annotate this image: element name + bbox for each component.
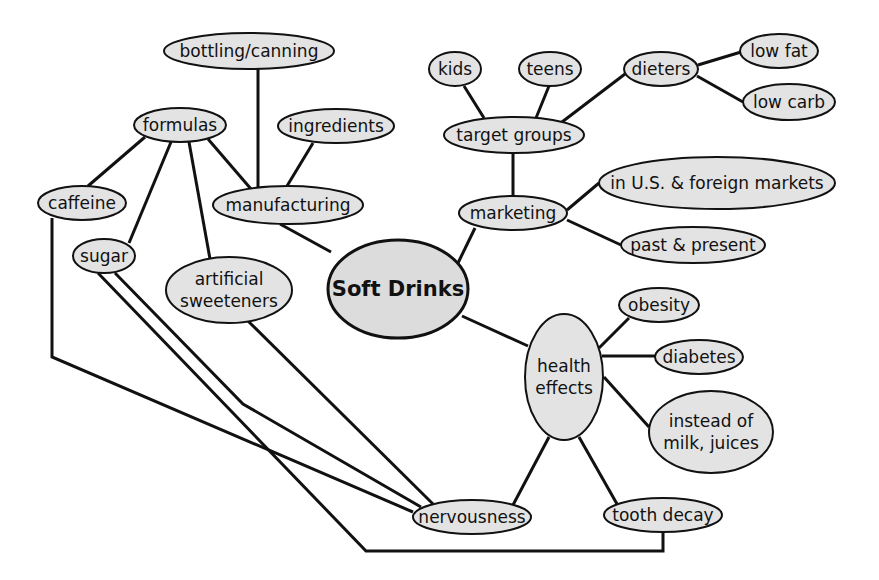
node-label: sugar <box>80 246 128 266</box>
edge-dieters-to-low-fat <box>698 52 741 65</box>
node-label: diabetes <box>662 347 735 367</box>
edge-dieters-to-low-carb <box>697 76 743 102</box>
node-label: sweeteners <box>180 291 278 311</box>
concept-map: Soft Drinksmanufacturingbottling/canning… <box>0 0 879 580</box>
edge-marketing-to-us-foreign-markets <box>567 183 599 210</box>
edge-manufacturing-to-ingredients <box>287 143 313 186</box>
edge-health-effects-to-instead-of-milk-juices <box>604 377 649 427</box>
edge-soft-drinks-to-marketing <box>458 228 475 263</box>
node-label: low carb <box>753 92 825 112</box>
node-ingredients: ingredients <box>278 109 394 143</box>
node-low-fat: low fat <box>740 34 818 68</box>
edge-health-effects-to-tooth-decay <box>579 437 617 504</box>
node-label: obesity <box>628 295 690 315</box>
node-label: instead of <box>669 411 754 431</box>
node-past-present: past & present <box>621 227 765 263</box>
node-label: teens <box>526 59 573 79</box>
node-soft-drinks: Soft Drinks <box>328 240 468 338</box>
node-label: nervousness <box>418 507 525 527</box>
node-label: formulas <box>143 115 218 135</box>
node-sugar: sugar <box>73 239 135 273</box>
node-label: kids <box>438 59 472 79</box>
node-ellipse <box>649 391 773 473</box>
node-manufacturing: manufacturing <box>213 186 363 224</box>
node-label: effects <box>535 378 593 398</box>
node-label: dieters <box>632 59 691 79</box>
edge-health-effects-to-nervousness <box>513 437 549 505</box>
node-label: target groups <box>456 125 571 145</box>
node-label: ingredients <box>288 116 384 136</box>
node-kids: kids <box>429 52 481 86</box>
edge-soft-drinks-to-manufacturing <box>280 224 331 252</box>
edge-manufacturing-to-formulas <box>208 139 251 189</box>
node-label: milk, juices <box>663 433 759 453</box>
nodes-layer: Soft Drinksmanufacturingbottling/canning… <box>38 33 835 534</box>
node-label: tooth decay <box>612 505 713 525</box>
node-obesity: obesity <box>619 288 699 322</box>
node-teens: teens <box>519 52 581 86</box>
node-ellipse <box>166 257 292 323</box>
node-label: health <box>537 356 591 376</box>
node-label: in U.S. & foreign markets <box>610 173 823 193</box>
node-ellipse <box>525 314 603 440</box>
node-dieters: dieters <box>624 52 698 86</box>
node-low-carb: low carb <box>743 84 835 120</box>
edge-formulas-to-caffeine <box>88 137 145 186</box>
node-bottling-canning: bottling/canning <box>164 33 334 69</box>
node-us-foreign-markets: in U.S. & foreign markets <box>599 157 835 209</box>
edge-marketing-to-past-present <box>567 220 621 245</box>
node-artificial-sweeteners: artificialsweeteners <box>166 257 292 323</box>
node-label: marketing <box>470 203 557 223</box>
node-target-groups: target groups <box>444 117 584 153</box>
node-marketing: marketing <box>459 196 567 230</box>
node-label: artificial <box>195 269 264 289</box>
node-label: low fat <box>750 41 808 61</box>
node-instead-of-milk-juices: instead ofmilk, juices <box>649 391 773 473</box>
edge-formulas-to-artificial-sweeteners <box>189 142 210 259</box>
edge-soft-drinks-to-health-effects <box>462 316 528 346</box>
edge-formulas-to-sugar <box>129 142 171 243</box>
node-label: caffeine <box>48 193 116 213</box>
edge-artificial-sweeteners-to-nervousness <box>247 320 433 504</box>
edge-target-groups-to-teens <box>536 86 549 118</box>
node-health-effects: healtheffects <box>525 314 603 440</box>
node-caffeine: caffeine <box>38 186 126 220</box>
node-label: bottling/canning <box>180 41 319 61</box>
edge-target-groups-to-kids <box>464 86 484 118</box>
node-formulas: formulas <box>134 108 226 142</box>
node-tooth-decay: tooth decay <box>604 498 722 532</box>
edge-health-effects-to-obesity <box>599 318 629 348</box>
node-nervousness: nervousness <box>413 500 531 534</box>
node-label: Soft Drinks <box>332 277 464 301</box>
node-diabetes: diabetes <box>655 340 743 374</box>
node-label: manufacturing <box>226 195 351 215</box>
node-label: past & present <box>630 235 756 255</box>
